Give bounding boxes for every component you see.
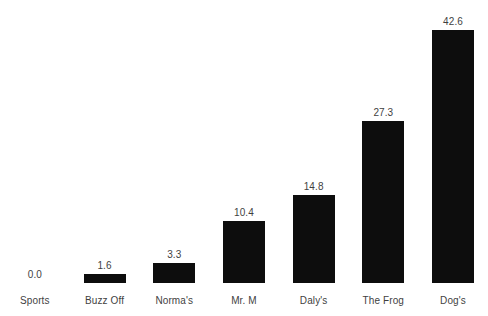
bar-value-label: 0.0 [28,269,42,280]
bar-chart: 0.0 1.6 3.3 10.4 14.8 27.3 42.6 [0,0,488,316]
bar-value-label: 42.6 [443,16,463,27]
category-label-the-frog: The Frog [348,283,418,316]
bar-slot: 0.0 [0,0,70,283]
category-label-mr-m: Mr. M [209,283,279,316]
bar-value-label: 10.4 [234,207,254,218]
category-label-dalys: Daly's [279,283,349,316]
bar-dalys[interactable] [293,195,335,283]
category-label-normas: Norma's [139,283,209,316]
bar-buzz-off[interactable] [84,274,126,284]
bar-slot: 10.4 [209,0,279,283]
bar-slot: 3.3 [139,0,209,283]
bar-slot: 27.3 [349,0,419,283]
category-label-dogs: Dog's [418,283,488,316]
category-label-sports: Sports [0,283,70,316]
bar-slot: 42.6 [418,0,488,283]
bar-mr-m[interactable] [223,221,265,283]
bar-value-label: 27.3 [373,107,393,118]
bar-value-label: 14.8 [304,181,324,192]
bar-the-frog[interactable] [362,121,404,283]
bar-value-label: 3.3 [167,249,181,260]
bar-normas[interactable] [153,263,195,283]
bar-dogs[interactable] [432,30,474,283]
bar-slot: 14.8 [279,0,349,283]
bar-slot: 1.6 [70,0,140,283]
bar-value-label: 1.6 [97,260,111,271]
category-label-buzz-off: Buzz Off [70,283,140,316]
plot-area: 0.0 1.6 3.3 10.4 14.8 27.3 42.6 [0,0,488,283]
category-axis: Sports Buzz Off Norma's Mr. M Daly's The… [0,283,488,316]
